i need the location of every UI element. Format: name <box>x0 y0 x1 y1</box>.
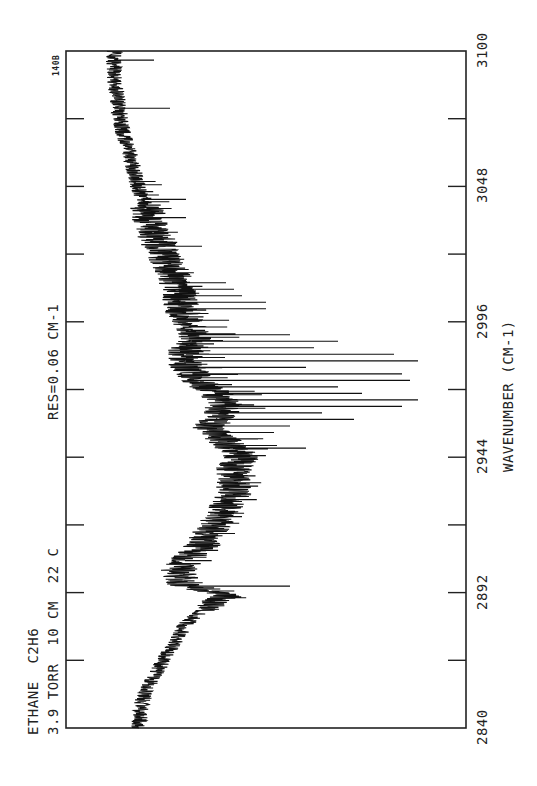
x-tick-label: 3048 <box>474 168 490 204</box>
plot-id-label: 140B <box>52 55 61 76</box>
sample-label: ETHANE C2H6 <box>25 628 41 735</box>
x-tick-label: 3100 <box>474 32 490 68</box>
x-tick-label: 2996 <box>474 303 490 339</box>
x-axis-label: WAVENUMBER (CM-1) <box>500 320 516 472</box>
conditions-label: 3.9 TORR 10 CM 22 C <box>45 547 61 735</box>
x-tick-label: 2944 <box>474 438 490 474</box>
x-tick-label: 2840 <box>474 709 490 745</box>
spectrum-chart <box>0 0 537 786</box>
resolution-label: RES=0.06 CM-1 <box>45 304 61 420</box>
axis-ticks <box>66 119 466 661</box>
x-tick-label: 2892 <box>474 574 490 610</box>
spectrum-trace <box>106 51 418 728</box>
